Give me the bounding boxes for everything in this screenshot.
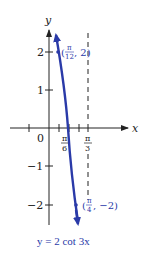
x-tick-label-pi-over-3: π 3 [84, 134, 92, 153]
svg-text:π: π [87, 197, 92, 205]
svg-text:6: 6 [62, 144, 67, 153]
svg-text:, −2): , −2) [93, 200, 118, 211]
origin-label: 0 [37, 132, 44, 145]
chart-caption: y = 2 cot 3x [37, 235, 90, 247]
cot-graph: x y 2 1 −1 −2 0 π 6 π 3 ( [0, 0, 146, 258]
svg-text:π: π [67, 44, 72, 52]
point-pi4-neg2 [74, 203, 78, 207]
y-tick-label-neg1: −1 [27, 160, 43, 173]
svg-text:(: ( [82, 200, 86, 211]
y-tick-label-1: 1 [37, 84, 44, 97]
svg-text:π: π [85, 134, 90, 143]
y-tick-label-neg2: −2 [27, 199, 43, 212]
point-label-pi12-2: ( π 12 , 2) [61, 44, 91, 61]
point-label-pi4-neg2: ( π 4 , −2) [82, 197, 118, 214]
svg-text:3: 3 [85, 144, 90, 153]
y-tick-label-2: 2 [37, 46, 44, 59]
x-axis-label: x [132, 122, 139, 135]
svg-text:, 2): , 2) [74, 47, 91, 58]
svg-text:12: 12 [65, 53, 74, 61]
y-axis-label: y [44, 14, 52, 27]
point-pi12-2 [56, 50, 60, 54]
svg-text:4: 4 [87, 206, 92, 214]
svg-text:π: π [62, 134, 67, 143]
